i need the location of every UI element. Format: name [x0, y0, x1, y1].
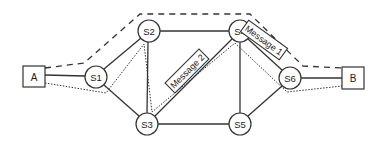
endpoint-b-label: B	[350, 73, 357, 84]
link-s5-s6	[248, 86, 282, 116]
switch-s2-label: S2	[143, 26, 155, 37]
switch-s1-label: S1	[90, 72, 102, 83]
switch-s6-label: S6	[284, 73, 296, 84]
switch-s3-label: S3	[141, 119, 153, 130]
link-s2-s3	[147, 42, 148, 113]
endpoint-a: A	[23, 66, 45, 87]
endpoint-a-label: A	[31, 72, 38, 83]
link-s1-s2	[104, 38, 141, 69]
network-diagram: A B S1 S2 S3 S4 S5 S6 Message 1 Message …	[0, 0, 382, 146]
message-2-label: Message 2	[165, 49, 209, 93]
link-s1-s3	[104, 85, 139, 116]
link-a-s1	[45, 75, 85, 76]
switch-s5-label: S5	[234, 119, 246, 130]
endpoint-b: B	[342, 67, 364, 89]
